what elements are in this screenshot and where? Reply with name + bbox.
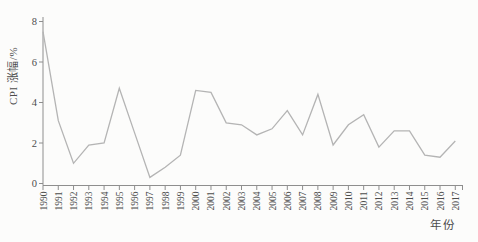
- cpi-line-chart: 0246819901991199219931994199519961997199…: [0, 0, 478, 242]
- x-tick-label: 2004: [252, 191, 262, 210]
- x-tick-label: 1995: [115, 191, 125, 210]
- y-tick-label: 2: [32, 138, 37, 149]
- x-tick-label: 2013: [390, 191, 400, 210]
- x-tick-label: 1996: [130, 191, 140, 210]
- x-tick-label: 2003: [237, 191, 247, 210]
- y-axis-title: CPI 涨幅/%: [7, 47, 19, 105]
- x-tick-label: 2011: [359, 191, 369, 210]
- chart-figure: 0246819901991199219931994199519961997199…: [0, 0, 478, 242]
- x-tick-label: 2001: [206, 191, 216, 210]
- x-tick-label: 2008: [313, 191, 323, 210]
- y-tick-label: 6: [32, 57, 37, 68]
- x-tick-label: 1998: [161, 191, 171, 210]
- x-tick-label: 2015: [420, 191, 430, 210]
- x-tick-label: 2012: [374, 191, 384, 210]
- x-tick-label: 2009: [329, 191, 339, 210]
- x-tick-label: 2002: [222, 191, 232, 210]
- x-tick-label: 2007: [298, 191, 308, 210]
- x-axis-title: 年份: [430, 218, 456, 231]
- x-tick-label: 2010: [344, 191, 354, 210]
- y-tick-label: 8: [32, 16, 37, 27]
- x-tick-label: 1999: [176, 191, 186, 210]
- x-tick-label: 1990: [39, 191, 49, 210]
- x-tick-label: 1994: [100, 191, 110, 210]
- x-tick-label: 2017: [451, 191, 461, 210]
- x-tick-label: 2016: [436, 191, 446, 210]
- x-tick-label: 1992: [69, 191, 79, 210]
- x-tick-label: 2006: [283, 191, 293, 210]
- x-tick-label: 1991: [54, 191, 64, 210]
- y-tick-label: 0: [32, 178, 37, 189]
- x-tick-label: 2014: [405, 191, 415, 210]
- x-tick-label: 2000: [191, 191, 201, 210]
- x-tick-label: 1997: [145, 191, 155, 210]
- y-tick-label: 4: [32, 97, 38, 108]
- x-tick-label: 2005: [268, 191, 278, 210]
- cpi-line: [43, 32, 455, 178]
- x-tick-label: 1993: [84, 191, 94, 210]
